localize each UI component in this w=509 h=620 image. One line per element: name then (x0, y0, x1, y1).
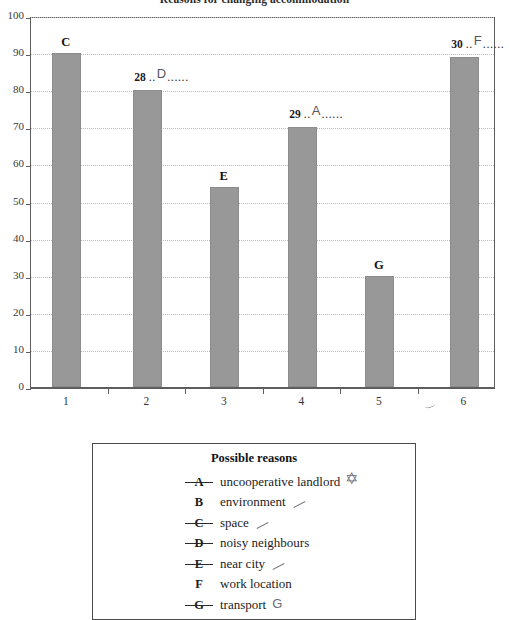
legend-item-label: near city (220, 556, 265, 572)
gridline (31, 17, 494, 18)
worksheet-page: Reasons for changing accommodation 10090… (0, 0, 509, 620)
answer-dots-right: ...... (322, 107, 344, 121)
gridline (31, 54, 494, 55)
gridline (31, 351, 494, 352)
legend-item-a[interactable]: Auncooperative landlord✡ (93, 471, 415, 490)
y-axis-tick-label: 60 (0, 157, 24, 169)
pencil-tick-mark (272, 561, 284, 569)
pencil-star-mark: ✡ (345, 469, 358, 488)
bar-1 (52, 53, 81, 387)
page-title: Reasons for changing accommodation (0, 0, 509, 5)
legend-item-g[interactable]: GtransportG (93, 597, 415, 613)
legend-key-letter: A (189, 475, 209, 490)
bar-3 (210, 187, 239, 387)
legend-item-b[interactable]: Benvironment (93, 494, 415, 510)
y-axis-tick-mark (26, 315, 31, 316)
legend-item-f[interactable]: Fwork location (93, 576, 415, 592)
bar-label-G: G (359, 258, 399, 273)
legend-box: Possible reasons Auncooperative landlord… (92, 443, 416, 620)
gridline (31, 277, 494, 278)
bar-6 (450, 57, 479, 387)
y-axis-tick-label: 40 (0, 232, 24, 244)
answer-dots-left: .. (466, 37, 473, 51)
y-axis-tick-label: 20 (0, 306, 24, 318)
legend-key-letter: B (189, 495, 209, 510)
bar-4 (288, 127, 317, 387)
legend-title: Possible reasons (93, 451, 415, 466)
legend-item-c[interactable]: Cspace (93, 515, 415, 531)
y-axis-tick-label: 90 (0, 46, 24, 58)
gridline (31, 240, 494, 241)
question-number: 29 (289, 108, 303, 120)
handwritten-answer: F (473, 33, 483, 48)
y-axis-tick-mark (26, 166, 31, 167)
legend-items: Auncooperative landlord✡BenvironmentCspa… (93, 471, 415, 613)
y-axis-tick-label: 10 (0, 343, 24, 355)
legend-key-letter: E (189, 557, 209, 572)
bar-label-C: C (46, 35, 86, 50)
pencil-written-letter: G (272, 596, 282, 611)
answer-blank-29[interactable]: 29 ..A...... (289, 106, 343, 122)
legend-item-label: noisy neighbours (220, 535, 309, 551)
legend-item-label: space (220, 515, 249, 531)
handwritten-answer: D (156, 66, 167, 81)
y-axis-tick-mark (26, 129, 31, 130)
legend-item-e[interactable]: Enear city (93, 556, 415, 572)
answer-dots-right: ...... (167, 70, 189, 84)
y-axis-tick-mark (26, 241, 31, 242)
bar-2 (133, 90, 162, 387)
y-axis-tick-mark (26, 278, 31, 279)
legend-key-letter: G (189, 598, 209, 613)
bar-5 (365, 276, 394, 387)
gridline (31, 128, 494, 129)
gridline (31, 165, 494, 166)
legend-item-label: work location (220, 576, 292, 592)
answer-dots-right: ...... (483, 37, 505, 51)
legend-item-d[interactable]: Dnoisy neighbours (93, 535, 415, 551)
y-axis-tick-label: 70 (0, 120, 24, 132)
answer-blank-30[interactable]: 30 ..F...... (451, 36, 504, 52)
x-axis-tick-label-6: 6 (448, 395, 478, 407)
chart-plot-area (30, 17, 495, 388)
y-axis-tick-mark (26, 352, 31, 353)
legend-key-letter: F (189, 577, 209, 592)
gridline (31, 314, 494, 315)
x-axis-tick-label-4: 4 (286, 395, 316, 407)
y-axis-tick-mark (26, 92, 31, 93)
y-axis-tick-label: 100 (0, 9, 24, 21)
legend-item-label: uncooperative landlord (220, 474, 340, 490)
x-axis-tick-label-2: 2 (131, 395, 161, 407)
legend-item-label: environment (220, 494, 286, 510)
y-axis-tick-mark (26, 18, 31, 19)
x-axis-tick-label-3: 3 (209, 395, 239, 407)
y-axis-tick-label: 30 (0, 269, 24, 281)
question-number: 30 (451, 38, 465, 50)
answer-dots-left: .. (149, 70, 156, 84)
pencil-tick-mark (293, 499, 305, 507)
y-axis-tick-mark (26, 55, 31, 56)
legend-item-label: transport (220, 597, 266, 613)
legend-key-letter: D (189, 536, 209, 551)
x-axis-tick-label-5: 5 (364, 395, 394, 407)
pencil-tick-mark (256, 520, 268, 528)
legend-key-letter: C (189, 516, 209, 531)
y-axis-tick-mark (26, 204, 31, 205)
handwritten-answer: A (311, 103, 322, 118)
x-axis-tick-label-1: 1 (51, 395, 81, 407)
question-number: 28 (134, 71, 148, 83)
gridline (31, 203, 494, 204)
gridline (31, 91, 494, 92)
y-axis-tick-label: 50 (0, 195, 24, 207)
answer-dots-left: .. (304, 107, 311, 121)
y-axis-tick-label: 80 (0, 83, 24, 95)
bar-label-E: E (204, 169, 244, 184)
answer-blank-28[interactable]: 28 ..D...... (134, 69, 189, 85)
